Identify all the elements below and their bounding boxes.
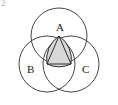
vertex-label-a: A (56, 22, 64, 33)
geometry-figure: 2 A B C (0, 0, 118, 105)
vertex-label-c: C (82, 64, 89, 75)
circles-and-triangle-drawing (0, 0, 118, 105)
vertex-label-b: B (27, 64, 34, 75)
shaded-reuleaux-triangle (47, 36, 72, 67)
